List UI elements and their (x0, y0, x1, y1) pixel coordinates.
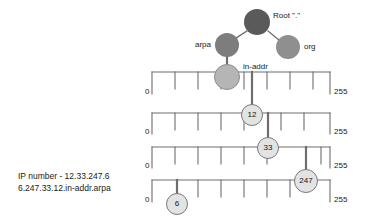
ruler-1-graphics (152, 72, 330, 105)
ruler-2-end-label: 255 (334, 128, 347, 136)
ip-caption-line-1: IP number - 12.33.247.6 (18, 170, 111, 182)
ruler-4-start-label: 0 (145, 196, 149, 204)
node-root[interactable] (244, 9, 270, 35)
octet-node-33[interactable]: 33 (257, 137, 279, 159)
node-root-label: Root "." (273, 12, 300, 20)
edge-root-arpa (236, 31, 247, 38)
octet-node-33-value: 33 (258, 144, 278, 152)
node-arpa[interactable] (215, 33, 239, 57)
ruler-1-start-label: 0 (145, 88, 149, 96)
node-org-label: org (304, 43, 316, 51)
octet-node-12[interactable]: 12 (241, 104, 263, 126)
octet-node-6-value: 6 (167, 200, 187, 208)
node-arpa-label: arpa (195, 41, 211, 49)
octet-node-247[interactable]: 247 (294, 169, 318, 193)
ruler-2-start-label: 0 (145, 128, 149, 136)
octet-node-6[interactable]: 6 (166, 193, 188, 215)
ruler-3-end-label: 255 (334, 162, 347, 170)
diagram-canvas: Root "." arpa org in-addr 0 255 12 0 255… (0, 0, 370, 221)
ruler-1-end-label: 255 (334, 88, 347, 96)
edge-root-org (268, 31, 279, 40)
ip-caption-line-2: 6.247.33.12.in-addr.arpa (18, 182, 111, 194)
node-in-addr-label: in-addr (243, 63, 268, 71)
octet-node-247-value: 247 (295, 177, 317, 185)
ruler-3-start-label: 0 (145, 162, 149, 170)
node-org[interactable] (276, 35, 300, 59)
octet-node-12-value: 12 (242, 111, 262, 119)
ip-caption: IP number - 12.33.247.6 6.247.33.12.in-a… (18, 170, 111, 194)
ruler-4-end-label: 255 (334, 196, 347, 204)
node-in-addr[interactable] (214, 64, 240, 90)
